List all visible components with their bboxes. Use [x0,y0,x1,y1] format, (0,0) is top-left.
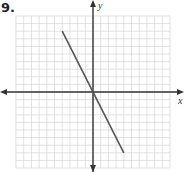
x-axis-arrow-left-icon [0,89,7,95]
y-axis-arrow-down-icon [90,165,96,172]
y-axis-label: y [97,0,103,11]
x-axis-label: x [177,95,183,106]
coordinate-grid-chart: x y [0,0,184,172]
y-axis-arrow-up-icon [90,0,96,7]
axes: x y [0,0,184,172]
